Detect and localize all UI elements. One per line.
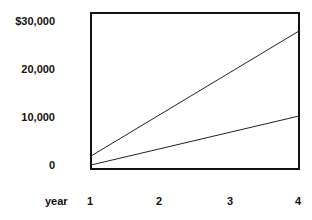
x-tick-1: 1 — [87, 195, 93, 207]
x-tick-2: 2 — [156, 195, 162, 207]
x-axis-label: year — [45, 195, 68, 207]
x-tick-4: 4 — [295, 195, 301, 207]
x-tick-3: 3 — [227, 195, 233, 207]
plot-frame — [91, 13, 299, 169]
series-upper-line — [91, 31, 299, 156]
plot-area — [0, 0, 312, 220]
series-lower-line — [91, 116, 299, 165]
